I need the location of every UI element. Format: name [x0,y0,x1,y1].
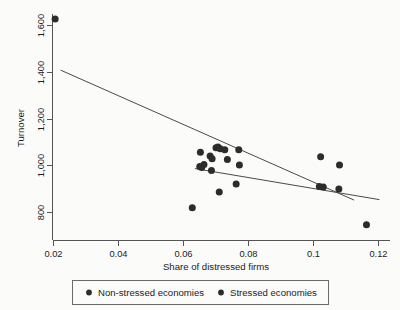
data-point [317,153,324,160]
data-point [233,180,240,187]
x-axis-ticks [54,241,379,247]
legend-label-stressed: Stressed economies [230,287,317,298]
data-point [336,162,343,169]
data-point [236,162,243,169]
y-tick-label-1200: 1,200 [36,108,46,131]
data-point [52,15,59,22]
legend-marker-non-stressed [86,290,92,296]
data-point [197,149,204,156]
y-axis-tick-labels: 1,600 1,400 1,200 1,000 800 [36,14,46,220]
legend-label-non-stressed: Non-stressed economies [98,287,204,298]
x-tick-label-0.12: 0.12 [369,249,387,259]
data-point [208,167,215,174]
y-axis-title: Turnover [15,108,26,147]
y-tick-label-1000: 1,000 [36,154,46,177]
plot-axes [53,14,391,241]
x-tick-label-0.04: 0.04 [109,249,127,259]
data-point [224,156,231,163]
data-point [363,221,370,228]
data-point [221,146,228,153]
data-point [198,164,205,171]
x-axis-tick-labels: 0.02 0.04 0.06 0.08 0.1 0.12 [44,249,387,259]
y-tick-label-1600: 1,600 [36,14,46,37]
chart-legend: Non-stressed economies Stressed economie… [73,281,329,305]
data-point [320,184,327,191]
chart-figure: 1,600 1,400 1,200 1,000 800 Turnover 0.0… [0,0,400,310]
y-axis-ticks [47,26,53,213]
scatter-plot-svg: 1,600 1,400 1,200 1,000 800 Turnover 0.0… [0,0,400,310]
y-tick-label-800: 800 [36,205,46,221]
data-point [216,188,223,195]
y-tick-label-1400: 1,400 [36,61,46,84]
data-point [335,185,342,192]
x-tick-label-0.1: 0.1 [307,249,320,259]
fit-line-non-stressed-fit [61,70,354,200]
legend-marker-stressed [218,290,224,296]
fit-line-stressed-fit [195,169,380,200]
data-point [209,155,216,162]
x-tick-label-0.08: 0.08 [239,249,257,259]
x-axis-title: Share of distressed firms [163,261,269,272]
x-tick-label-0.06: 0.06 [174,249,192,259]
data-point [235,146,242,153]
x-tick-label-0.02: 0.02 [44,249,62,259]
fit-lines-layer [61,70,380,200]
data-point [189,204,196,211]
data-points-layer [52,15,370,228]
series-non-stressed [52,15,243,211]
